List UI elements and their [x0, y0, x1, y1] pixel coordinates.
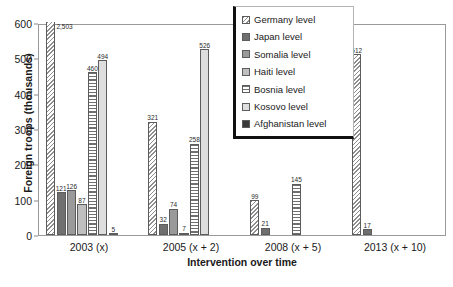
- legend-item: Afghanistan level: [242, 115, 349, 132]
- legend-item-label: Afghanistan level: [254, 119, 326, 129]
- bar: 21: [261, 228, 270, 235]
- legend-item-label: Bosnia level: [254, 85, 305, 95]
- y-tick-label: 600: [14, 18, 32, 30]
- y-tick-label: 0: [26, 230, 32, 242]
- legend-item-label: Haiti level: [254, 67, 295, 77]
- legend-swatch-icon: [242, 68, 250, 76]
- bar: 87: [77, 204, 86, 235]
- bar-group: 51217: [345, 25, 447, 235]
- legend-swatch-icon: [242, 33, 250, 41]
- bar: 526: [200, 49, 209, 235]
- legend-item-label: Japan level: [254, 32, 302, 42]
- x-axis-title: Intervention over time: [38, 256, 446, 268]
- legend-swatch-icon: [242, 50, 250, 58]
- y-tick-label: 300: [14, 124, 32, 136]
- legend-swatch-icon: [242, 103, 250, 111]
- bar: 7: [179, 233, 188, 235]
- legend-item-label: Somalia level: [254, 50, 311, 60]
- legend-item: Somalia level: [242, 46, 349, 63]
- legend-item: Japan level: [242, 28, 349, 45]
- bar: 2,503: [46, 22, 55, 235]
- bar-value-label: 145: [291, 177, 302, 184]
- legend-item: Germany level: [242, 11, 349, 28]
- bar: 460: [88, 72, 97, 235]
- legend-swatch-icon: [242, 120, 250, 128]
- y-tick-label: 500: [14, 53, 32, 65]
- bar-value-label: 258: [189, 137, 200, 144]
- bar-value-label: 99: [251, 194, 258, 201]
- bar-value-label: 87: [78, 198, 85, 205]
- legend-swatch-icon: [242, 16, 250, 24]
- bar-value-label: 5: [111, 227, 115, 234]
- bar-chart-figure: Foreign troops (thousands) 0100200300400…: [0, 0, 453, 287]
- bar-value-label: 7: [182, 226, 186, 233]
- legend-item-label: Germany level: [254, 15, 315, 25]
- bar: 99: [250, 200, 259, 235]
- bar: 17: [363, 229, 372, 235]
- bar-value-label: 74: [170, 202, 177, 209]
- bar-value-label: 21: [262, 221, 269, 228]
- bar-value-label: 321: [147, 115, 158, 122]
- bar: 5: [109, 233, 118, 235]
- x-tick-label: 2003 (x): [70, 241, 109, 253]
- bar-value-label: 2,503: [56, 24, 72, 31]
- bar: 145: [292, 184, 301, 235]
- x-tick-label: 2013 (x + 10): [364, 241, 426, 253]
- bar: 321: [148, 122, 157, 235]
- y-axis-tick-labels: 0100200300400500600: [0, 24, 38, 236]
- bar-group: 2,503121126874604945: [39, 25, 141, 235]
- bar-group: 32132747258526: [141, 25, 243, 235]
- legend-swatch-icon: [242, 85, 250, 93]
- legend-item: Haiti level: [242, 63, 349, 80]
- bar-value-label: 121: [56, 186, 67, 193]
- y-tick-label: 200: [14, 159, 32, 171]
- bar-value-label: 460: [87, 66, 98, 73]
- chart-legend: Germany levelJapan levelSomalia levelHai…: [233, 6, 354, 139]
- x-tick-label: 2005 (x + 2): [163, 241, 219, 253]
- x-axis-tick-labels: 2003 (x)2005 (x + 2)2008 (x + 5)2013 (x …: [38, 238, 446, 254]
- legend-item: Kosovo level: [242, 98, 349, 115]
- bar-value-label: 126: [66, 184, 77, 191]
- bar: 32: [159, 224, 168, 235]
- y-tick-label: 400: [14, 89, 32, 101]
- bar-value-label: 494: [97, 54, 108, 61]
- bar-value-label: 526: [199, 43, 210, 50]
- bar: 494: [98, 60, 107, 235]
- bar-value-label: 32: [160, 217, 167, 224]
- legend-item: Bosnia level: [242, 81, 349, 98]
- bar: 126: [67, 190, 76, 235]
- y-tick-label: 100: [14, 195, 32, 207]
- bar: 121: [57, 192, 66, 235]
- bar-value-label: 17: [364, 223, 371, 230]
- bar: 258: [190, 144, 199, 235]
- x-tick-label: 2008 (x + 5): [265, 241, 321, 253]
- bar: 74: [169, 209, 178, 235]
- legend-item-label: Kosovo level: [254, 102, 308, 112]
